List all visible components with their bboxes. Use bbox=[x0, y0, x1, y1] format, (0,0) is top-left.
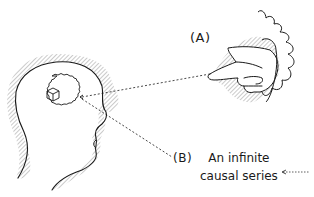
label-b: (B) bbox=[173, 151, 192, 165]
caption-line-2: causal series bbox=[200, 167, 278, 185]
cube-icon bbox=[47, 88, 59, 101]
pointing-hand bbox=[208, 47, 278, 93]
label-a: (A) bbox=[190, 30, 211, 45]
caption: An infinite causal series bbox=[200, 149, 278, 185]
dotted-arrow-left bbox=[282, 170, 309, 174]
caption-line-1: An infinite bbox=[200, 149, 278, 167]
